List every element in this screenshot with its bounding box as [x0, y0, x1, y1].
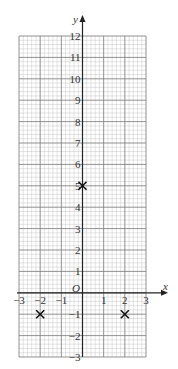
x-tick-label: 1 — [101, 294, 107, 306]
y-tick-label: 9 — [75, 94, 81, 106]
coordinate-grid-chart: −3−2−1123−3−2−1123456789101112 x y O — [0, 0, 178, 369]
y-tick-label: 11 — [70, 51, 81, 63]
x-tick-label: −2 — [34, 294, 46, 306]
y-axis-label: y — [72, 13, 78, 25]
x-tick-label: −1 — [55, 294, 67, 306]
origin-label: O — [72, 282, 80, 294]
x-axis-label: x — [162, 280, 168, 292]
y-tick-label: 7 — [75, 137, 81, 149]
y-tick-label: 1 — [75, 265, 81, 277]
y-tick-label: −1 — [69, 308, 81, 320]
x-tick-label: 3 — [143, 294, 149, 306]
y-tick-label: 5 — [75, 180, 81, 192]
y-tick-label: 3 — [75, 223, 81, 235]
y-tick-label: 6 — [75, 158, 81, 170]
y-tick-label: −2 — [69, 330, 81, 342]
y-tick-label: 4 — [75, 201, 81, 213]
y-tick-label: 2 — [75, 244, 81, 256]
y-tick-label: 12 — [70, 30, 81, 42]
y-tick-label: 10 — [70, 73, 82, 85]
tick-labels: −3−2−1123−3−2−1123456789101112 — [13, 30, 149, 363]
y-tick-label: 8 — [75, 116, 81, 128]
x-tick-label: 2 — [122, 294, 128, 306]
x-tick-label: −3 — [13, 294, 25, 306]
y-tick-label: −3 — [69, 351, 81, 363]
y-axis-arrow-icon — [80, 15, 86, 22]
